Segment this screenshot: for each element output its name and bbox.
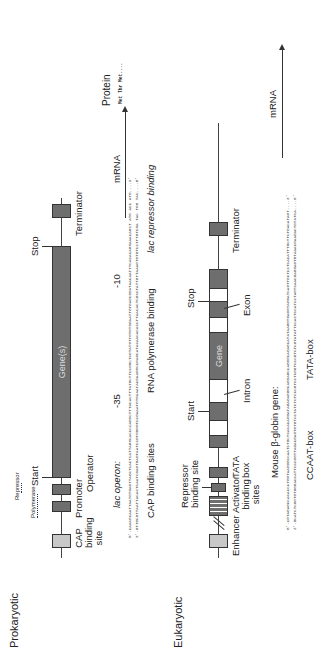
protein-residues: Met Thr Met.... bbox=[118, 63, 123, 104]
prokaryotic-mrna-arrow-line bbox=[125, 110, 126, 218]
activator-binding-sites-box bbox=[209, 496, 228, 516]
repressor-binding-site-box bbox=[211, 483, 226, 492]
eukaryotic-mrna-arrowhead-icon bbox=[279, 44, 285, 50]
globin-bottom-strand: 3'-GCATCTCGGTGTGGGACCATTCCCGGTTAGACGAGTG… bbox=[292, 195, 297, 530]
stop-label: Stop bbox=[30, 236, 40, 256]
gene-label: Gene bbox=[214, 345, 224, 367]
promoter-label: Promoter bbox=[74, 479, 84, 518]
exon-1 bbox=[209, 435, 228, 448]
caption-rna-polymerase-binding: RNA polymerase binding bbox=[146, 288, 156, 393]
eukaryotic-stop-label: Stop bbox=[186, 288, 196, 308]
start-tick bbox=[198, 411, 209, 412]
genes-box: Gene(s) bbox=[52, 246, 71, 478]
tata-box-box bbox=[209, 467, 228, 478]
protein-label: Protein bbox=[102, 74, 112, 106]
exon-label: Exon bbox=[242, 294, 252, 316]
terminator-label: Terminator bbox=[74, 191, 84, 236]
lac-operon-heading: lac operon: bbox=[112, 461, 122, 508]
utr-white-2 bbox=[209, 288, 228, 302]
eukaryotic-terminator-box bbox=[209, 222, 228, 236]
intron-1 bbox=[209, 379, 228, 403]
polymerase-label: Polymerase bbox=[30, 486, 36, 518]
prokaryotic-title: Prokaryotic bbox=[8, 593, 20, 648]
intron-2 bbox=[209, 317, 228, 333]
cap-binding-site-label: CAP binding site bbox=[74, 528, 104, 548]
repressor-bs-line2: binding site bbox=[190, 460, 200, 508]
genes-label: Gene(s) bbox=[57, 346, 67, 379]
eukaryotic-mrna-arrow-line bbox=[282, 48, 283, 158]
caption-tata-box: TATA-box bbox=[305, 339, 315, 380]
caption-lac-repressor-text: lac repressor binding bbox=[145, 165, 156, 253]
eukaryotic-title: Eukaryotic bbox=[172, 597, 184, 648]
exon-3 bbox=[209, 301, 228, 318]
enhancer-box bbox=[209, 534, 228, 548]
tata-line2: box bbox=[241, 456, 251, 478]
utr-white-1 bbox=[209, 420, 228, 436]
caption-lac-repressor-binding: lac repressor binding bbox=[146, 165, 156, 253]
repressor-binding-site-label: Repressor binding site bbox=[180, 460, 200, 508]
repressor-label: Repressor bbox=[14, 472, 20, 500]
gene-regulation-diagram: Prokaryotic CAP binding site Promoter Po… bbox=[0, 0, 330, 658]
lac-top-strand: 5'-CAACGCAATTAATGTGAGTTAGCTCACTCATTAGGCA… bbox=[127, 177, 132, 538]
start-tick bbox=[42, 477, 52, 478]
stop-tick bbox=[42, 246, 52, 247]
prokaryotic-mrna-label: mRNA bbox=[112, 155, 122, 183]
lac-bottom-strand: 3'-GTTGCGTTAATTACACTCAATCGAGTGAGTAATCCGT… bbox=[134, 177, 139, 538]
gene-exon-box: Gene bbox=[209, 332, 228, 380]
terminator-box bbox=[52, 204, 71, 218]
stripe bbox=[210, 499, 227, 500]
operator-label: Operator bbox=[85, 455, 95, 493]
eukaryotic-mrna-label: mRNA bbox=[268, 90, 278, 118]
caption-ccaat-box: CCAAT-box bbox=[305, 431, 315, 480]
exon-2 bbox=[209, 402, 228, 421]
repressor-binding-site-pointer bbox=[202, 487, 211, 488]
repressor-footprint bbox=[21, 483, 22, 493]
exon-4 bbox=[209, 269, 228, 289]
promoter-box bbox=[52, 501, 71, 512]
enhancer-label: Enhancer bbox=[231, 515, 241, 556]
globin-top-strand: 5'-CGTAGAGCCACACCCTGGTAAGGGCCAATCTGCTCAC… bbox=[285, 195, 290, 530]
caption-cap-binding-sites: CAP binding sites bbox=[146, 443, 156, 518]
polymerase-footprint bbox=[37, 494, 38, 518]
stripe bbox=[210, 511, 227, 512]
stripe bbox=[210, 503, 227, 504]
mouse-beta-globin-heading: Mouse β-globin gene: bbox=[270, 386, 280, 478]
eukaryotic-start-label: Start bbox=[186, 401, 196, 421]
marker-minus35: -35 bbox=[112, 394, 122, 408]
start-label: Start bbox=[30, 466, 40, 486]
stop-tick bbox=[198, 301, 209, 302]
prokaryotic-mrna-arrowhead-icon bbox=[122, 106, 128, 112]
stripe bbox=[210, 507, 227, 508]
cap-binding-site-box bbox=[52, 534, 71, 548]
cap-label-line3: site bbox=[94, 528, 104, 548]
activator-label-line3: sites bbox=[251, 476, 261, 513]
tata-box-label: TATA box bbox=[231, 456, 251, 478]
intron-label: Intron bbox=[242, 379, 252, 403]
activator-binding-sites-label: Activator binding sites bbox=[231, 476, 261, 513]
marker-minus10: -10 bbox=[112, 274, 122, 288]
eukaryotic-terminator-label: Terminator bbox=[231, 208, 241, 253]
operator-box bbox=[52, 484, 71, 495]
